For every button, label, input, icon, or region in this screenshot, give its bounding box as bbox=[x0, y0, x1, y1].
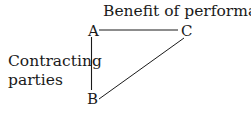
diagram-edges bbox=[0, 0, 251, 115]
edge-b-c bbox=[99, 38, 184, 99]
